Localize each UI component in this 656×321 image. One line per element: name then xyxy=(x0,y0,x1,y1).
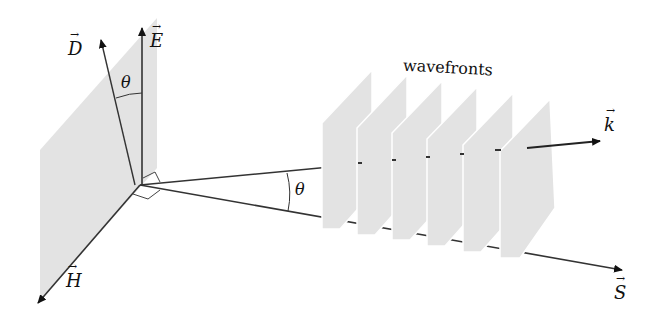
e-label-text: E xyxy=(150,32,163,50)
d-label-text: D xyxy=(68,40,82,58)
theta-arc-mid xyxy=(287,173,290,211)
h-label: H xyxy=(66,272,82,290)
field-plane xyxy=(40,18,157,300)
theta-mid-label: θ xyxy=(295,182,305,198)
d-label: D xyxy=(68,40,82,58)
s-label-text: S xyxy=(614,284,626,302)
k-label-text: k xyxy=(604,116,615,134)
k-label: k xyxy=(604,116,615,134)
e-label: E xyxy=(150,32,163,50)
wavefront-group xyxy=(322,70,555,258)
right-angle-marker-bottom xyxy=(133,190,160,199)
diagram-svg xyxy=(0,0,656,321)
theta-top-label: θ xyxy=(121,75,131,91)
s-label: S xyxy=(614,284,626,302)
diagram-canvas: D E H k S θ θ wavefronts xyxy=(0,0,656,321)
h-label-text: H xyxy=(66,272,82,290)
